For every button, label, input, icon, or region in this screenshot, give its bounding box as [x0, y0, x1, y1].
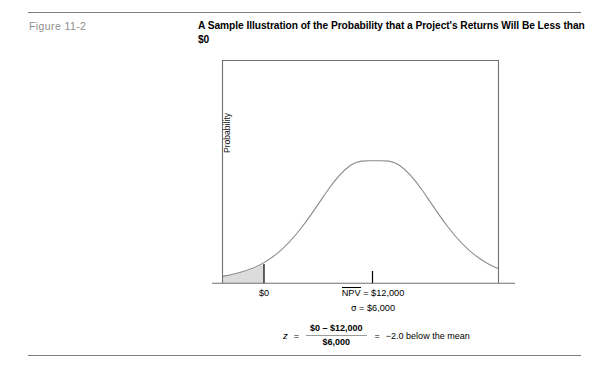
z-result: −2.0 below the mean	[386, 331, 470, 341]
z-variable: z	[283, 330, 288, 341]
z-numerator: $0 – $12,000	[306, 323, 367, 335]
plot-frame	[223, 61, 499, 284]
figure-illustration: Probability $0 NPV = $12,000 σ = $6,000 …	[0, 0, 606, 367]
y-axis-label: Probability	[222, 93, 232, 173]
normal-curve	[223, 161, 499, 277]
z-equals-second: =	[375, 331, 380, 341]
sigma-value: = $6,000	[356, 303, 395, 313]
sigma-annotation: σ = $6,000	[312, 303, 434, 313]
z-denominator: $6,000	[319, 336, 355, 348]
npv-mean-value: = $12,000	[361, 288, 405, 298]
z-fraction: $0 – $12,000 $6,000	[306, 323, 367, 348]
shaded-tail-region	[223, 264, 265, 283]
x-tick-label-zero: $0	[234, 288, 294, 298]
npv-mean-symbol: NPV	[342, 287, 361, 299]
normal-distribution-plot	[0, 0, 606, 367]
x-tick-label-mean: NPV = $12,000	[312, 287, 434, 299]
z-equals-first: =	[294, 331, 299, 341]
z-score-formula: z = $0 – $12,000 $6,000 = −2.0 below the…	[283, 323, 470, 348]
